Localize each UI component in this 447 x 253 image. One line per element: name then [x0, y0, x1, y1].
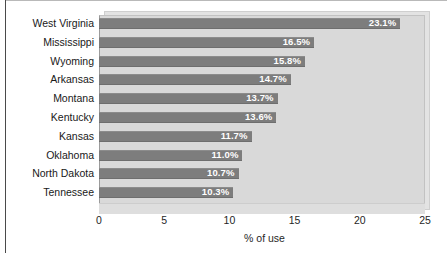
- bar-row: 10.7%: [99, 168, 425, 179]
- bar-value-label: 15.8%: [265, 55, 301, 66]
- bar-row: 15.8%: [99, 56, 425, 67]
- bar-row: 16.5%: [99, 37, 425, 48]
- chart-title: [20, 0, 320, 3]
- bar-value-label: 16.5%: [274, 36, 310, 47]
- x-tick-label: 20: [354, 214, 366, 226]
- category-label: Wyoming: [0, 56, 94, 67]
- x-axis-title-text: % of use: [244, 232, 285, 244]
- category-label: North Dakota: [0, 168, 94, 179]
- bar: [99, 18, 400, 29]
- x-tick-label: 15: [289, 214, 301, 226]
- bar-value-label: 10.7%: [199, 167, 235, 178]
- category-label: Kentucky: [0, 112, 94, 123]
- x-tick-label: 5: [161, 214, 167, 226]
- bar-row: 10.3%: [99, 187, 425, 198]
- category-label: Mississippi: [0, 37, 94, 48]
- bar-row: 14.7%: [99, 74, 425, 85]
- category-label: Arkansas: [0, 74, 94, 85]
- bar-value-label: 23.1%: [360, 17, 396, 28]
- bar-value-label: 14.7%: [251, 73, 287, 84]
- bar-row: 23.1%: [99, 18, 425, 29]
- x-tick-label: 25: [419, 214, 431, 226]
- bar-value-label: 13.6%: [236, 111, 272, 122]
- bar-value-label: 10.3%: [193, 186, 229, 197]
- bar-value-label: 11.7%: [212, 130, 248, 141]
- bar-value-label: 13.7%: [238, 92, 274, 103]
- bar-row: 11.0%: [99, 150, 425, 161]
- category-label: Oklahoma: [0, 150, 94, 161]
- bar-series: 23.1%16.5%15.8%14.7%13.7%13.6%11.7%11.0%…: [99, 15, 425, 205]
- x-tick-label: 10: [224, 214, 236, 226]
- bar-value-label: 11.0%: [202, 149, 238, 160]
- bar-row: 11.7%: [99, 131, 425, 142]
- chart-figure: West VirginiaMississippiWyomingArkansasM…: [0, 0, 447, 253]
- x-axis-ticks: 0510152025: [99, 214, 425, 230]
- x-axis-title: % of use: [0, 232, 447, 244]
- bar-row: 13.7%: [99, 93, 425, 104]
- category-label: Montana: [0, 93, 94, 104]
- x-tick-label: 0: [96, 214, 102, 226]
- bar-row: 13.6%: [99, 112, 425, 123]
- category-label: Tennessee: [0, 187, 94, 198]
- category-axis-labels: West VirginiaMississippiWyomingArkansasM…: [0, 15, 94, 205]
- category-label: West Virginia: [0, 18, 94, 29]
- category-label: Kansas: [0, 131, 94, 142]
